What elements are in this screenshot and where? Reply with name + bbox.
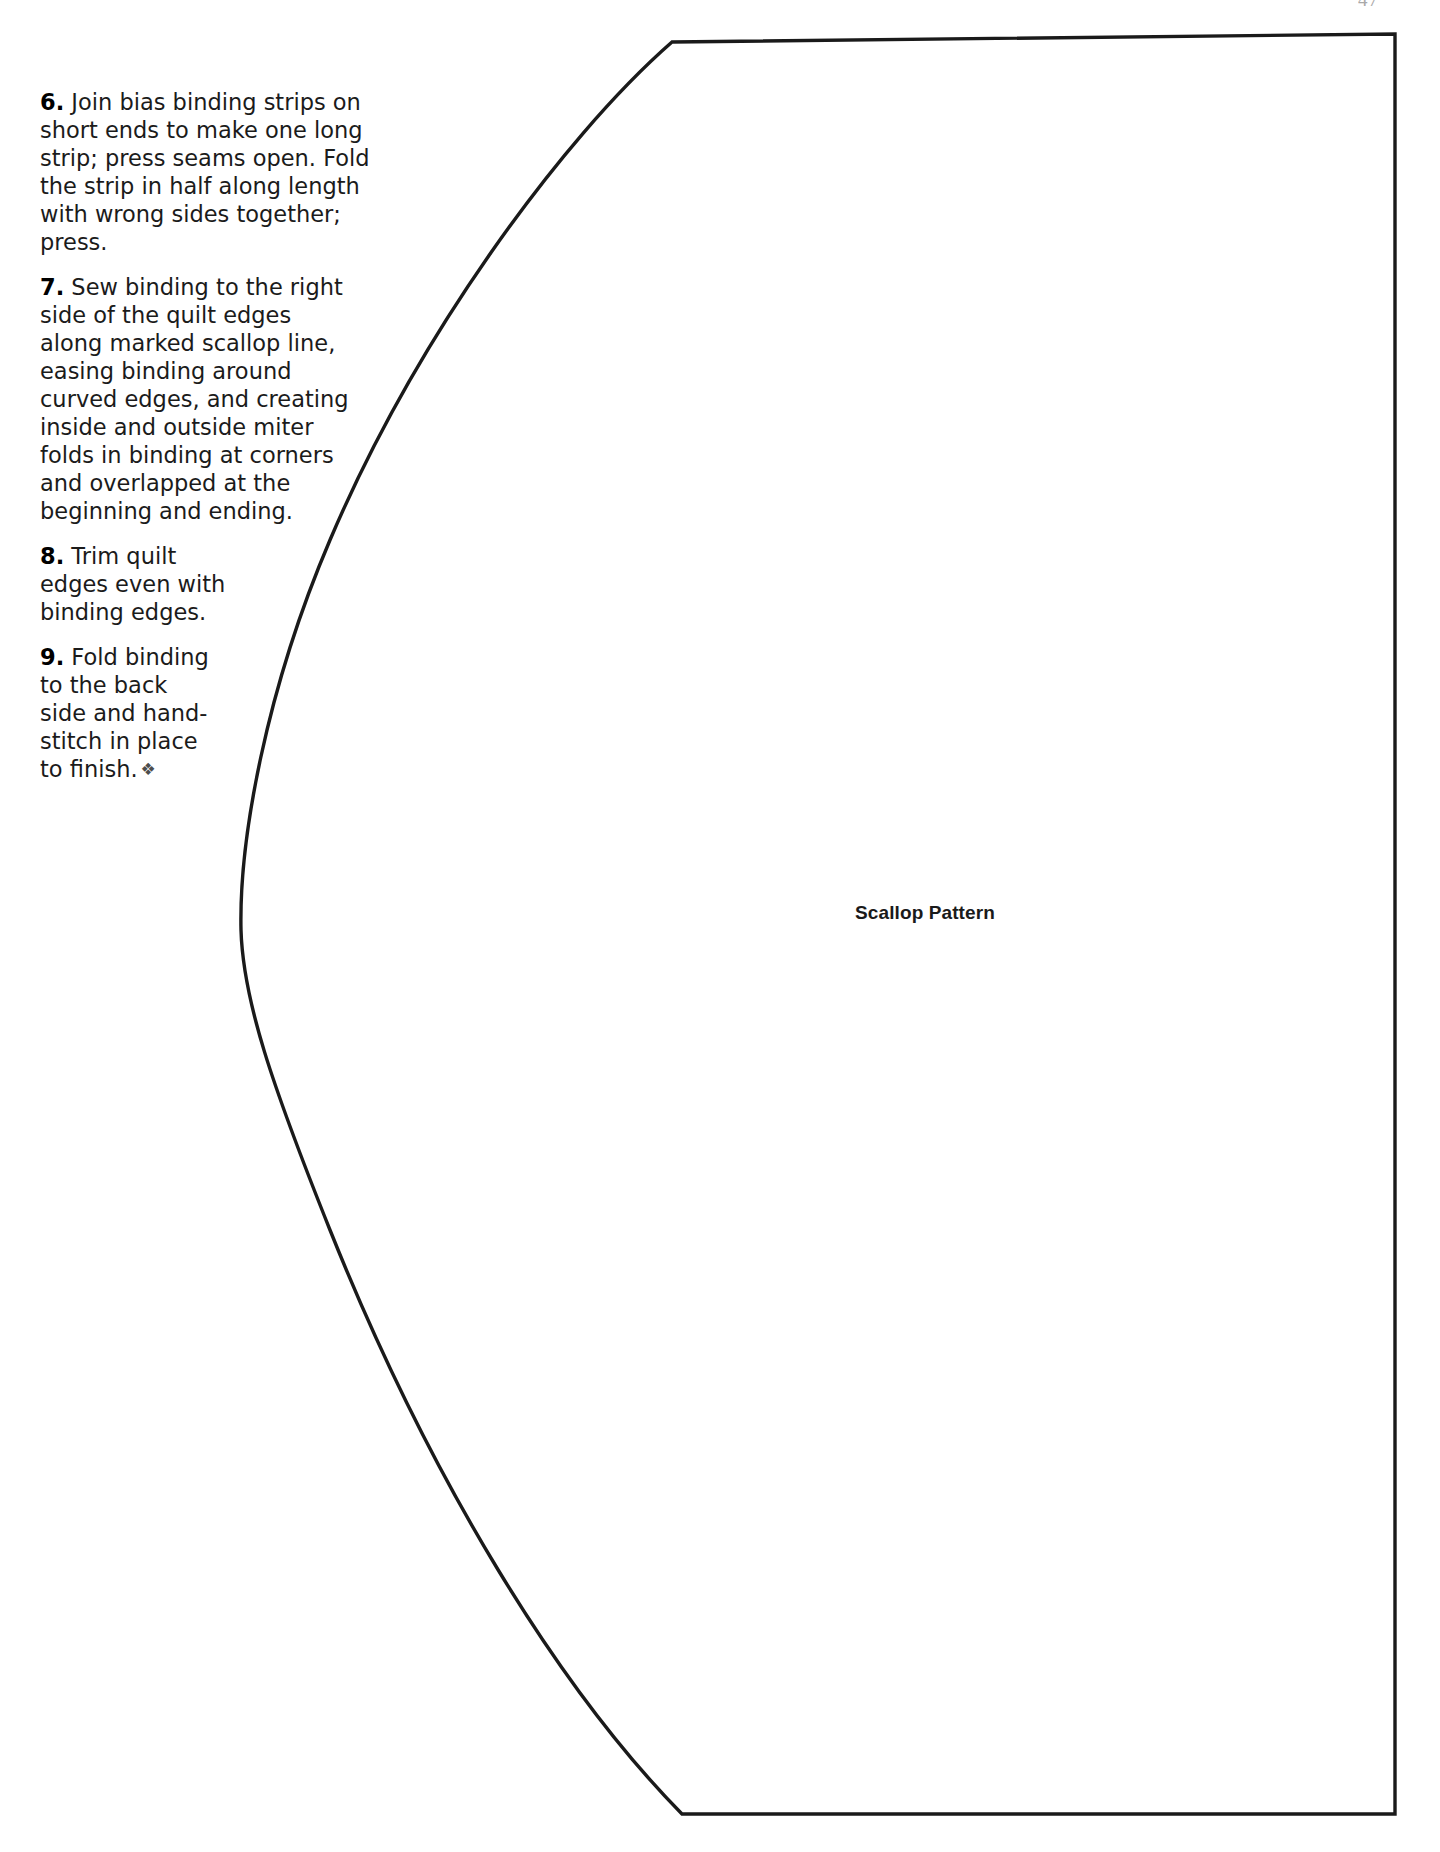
step-number: 7. bbox=[40, 274, 64, 300]
instruction-step-9: 9. Fold binding to the back side and han… bbox=[40, 643, 215, 783]
step-number: 8. bbox=[40, 543, 64, 569]
instruction-list: 6. Join bias binding strips on short end… bbox=[40, 88, 412, 800]
step-text: Sew binding to the right side of the qui… bbox=[40, 274, 349, 524]
scallop-pattern-label: Scallop Pattern bbox=[845, 902, 1005, 924]
instruction-step-6: 6. Join bias binding strips on short end… bbox=[40, 88, 412, 256]
step-number: 9. bbox=[40, 644, 64, 670]
instruction-step-8: 8. Trim quilt edges even with binding ed… bbox=[40, 542, 240, 626]
step-number: 6. bbox=[40, 89, 64, 115]
page-number: 47 bbox=[1358, 0, 1428, 11]
step-text: Join bias binding strips on short ends t… bbox=[40, 89, 370, 255]
step-text: Trim quilt edges even with binding edges… bbox=[40, 543, 225, 625]
end-ornament-icon: ❖ bbox=[138, 759, 156, 779]
scallop-outline-path bbox=[241, 34, 1395, 1814]
document-page: 47 6. Join bias binding strips on short … bbox=[0, 0, 1440, 1852]
step-text: Fold binding to the back side and hand-s… bbox=[40, 644, 209, 782]
instruction-step-7: 7. Sew binding to the right side of the … bbox=[40, 273, 350, 525]
